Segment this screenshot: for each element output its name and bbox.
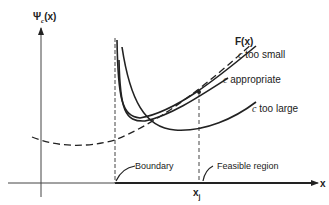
feasible-pointer-icon	[203, 166, 213, 181]
xj-point	[197, 90, 201, 94]
f-curve-label: F(x)	[235, 37, 253, 47]
c-too-large-label: c too large	[252, 104, 298, 114]
xj-label: xj	[193, 188, 201, 200]
c-too-small-label: c too small	[238, 50, 285, 60]
feasible-region-label: Feasible region	[217, 162, 279, 171]
c-appropriate-label: c appropriate	[223, 75, 281, 85]
boundary-pointer-icon	[116, 166, 135, 181]
y-axis-label: Ψc(x)	[33, 12, 56, 25]
f-curve	[32, 44, 252, 145]
x-axis-label: x	[320, 179, 326, 189]
c-appropriate-curve	[119, 60, 228, 121]
boundary-label: Boundary	[135, 162, 174, 171]
